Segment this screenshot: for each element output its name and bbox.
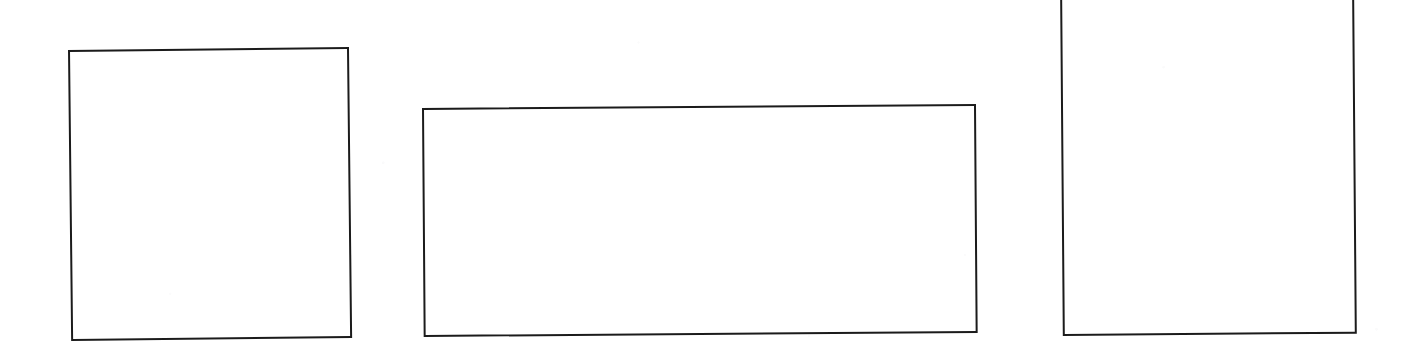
rectangle-right — [1060, 0, 1357, 336]
rectangle-left — [68, 47, 352, 341]
rectangle-middle — [422, 104, 978, 337]
page-canvas — [0, 0, 1419, 354]
